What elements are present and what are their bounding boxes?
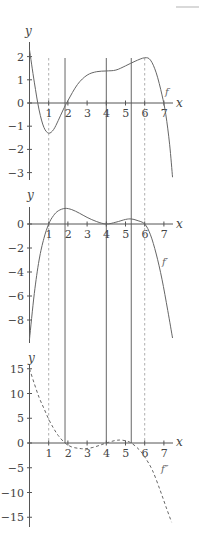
y-tick-label: 0 <box>17 437 24 450</box>
y-tick-label: 10 <box>10 388 24 401</box>
y-tick-label: 5 <box>17 412 24 425</box>
y-axis-label: y <box>26 188 34 202</box>
x-tick-label: 1 <box>46 107 53 120</box>
x-tick-label: 2 <box>65 107 72 120</box>
x-axis-label: x <box>176 435 183 449</box>
x-axis-label: x <box>176 217 183 231</box>
x-tick-label: 7 <box>161 447 168 460</box>
y-axis-label: y <box>27 351 35 365</box>
x-tick-label: 2 <box>65 228 72 241</box>
x-tick-label: 3 <box>84 107 91 120</box>
y-tick-label: −15 <box>1 511 24 524</box>
curve-label-f-double-prime: f″ <box>160 463 169 474</box>
x-tick-label: 4 <box>103 228 110 241</box>
x-tick-label: 4 <box>103 447 110 460</box>
y-axis-label: y <box>24 24 32 38</box>
x-tick-label: 6 <box>142 228 149 241</box>
x-tick-label: 5 <box>122 107 129 120</box>
x-tick-label: 3 <box>84 228 91 241</box>
curve-label-f-prime: f′ <box>161 256 169 267</box>
x-tick-label: 1 <box>46 447 53 460</box>
panel-f-prime: y x f′ 12345670−2−4−6−8 <box>8 188 183 343</box>
y-tick-label: −5 <box>8 462 24 475</box>
derivative-graphs-figure: y x f 1234567210−1−2−3 y x f′ 12345670−2… <box>0 0 199 537</box>
curve-label-f: f <box>164 86 171 97</box>
y-tick-label: −2 <box>8 143 24 156</box>
x-tick-label: 5 <box>122 228 129 241</box>
y-tick-label: −10 <box>1 487 24 500</box>
y-tick-label: 0 <box>17 97 24 110</box>
y-tick-label: −1 <box>8 120 24 133</box>
y-tick-label: 0 <box>17 218 24 231</box>
x-tick-label: 2 <box>65 447 72 460</box>
y-tick-label: −2 <box>8 242 24 255</box>
y-tick-label: −6 <box>8 290 24 303</box>
vertical-reference-lines <box>49 58 145 443</box>
y-tick-label: −8 <box>8 314 24 327</box>
x-tick-label: 7 <box>161 228 168 241</box>
y-tick-label: 2 <box>17 51 24 64</box>
y-tick-label: 15 <box>10 363 24 376</box>
x-tick-label: 4 <box>103 107 110 120</box>
x-axis-label: x <box>176 96 183 110</box>
panel-f-double-prime: y x f″ 1234567151050−5−10−15 <box>1 351 183 527</box>
y-tick-label: −3 <box>8 167 24 180</box>
x-tick-label: 5 <box>122 447 129 460</box>
y-tick-label: 1 <box>17 74 24 87</box>
curve-fpp <box>30 369 172 522</box>
panel-f: y x f 1234567210−1−2−3 <box>8 24 183 180</box>
x-tick-label: 6 <box>142 107 149 120</box>
y-tick-label: −4 <box>8 266 24 279</box>
